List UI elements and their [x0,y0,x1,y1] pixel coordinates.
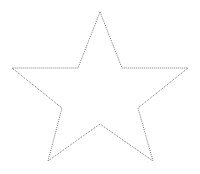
canvas-background [0,0,200,174]
star-figure [0,0,200,174]
drawing-canvas [0,0,200,174]
